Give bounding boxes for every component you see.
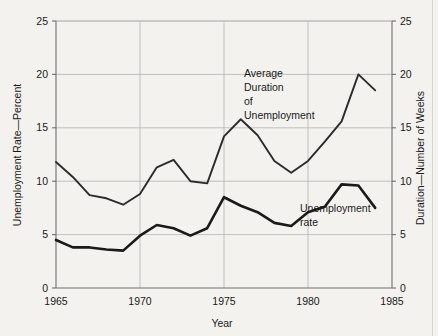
- right-axis-tick-label: 20: [400, 68, 412, 80]
- chart-figure: 0510152025 0510152025 196519701975198019…: [0, 0, 438, 336]
- right-axis-tick-label: 0: [400, 282, 406, 294]
- x-axis-tick-label: 1985: [380, 295, 404, 307]
- left-axis-tick-label: 25: [36, 15, 48, 27]
- right-axis-tick-label: 15: [400, 121, 412, 133]
- left-axis-tick-label: 10: [36, 175, 48, 187]
- x-axis-title: Year: [211, 317, 233, 329]
- duration-annotation-line: Unemployment: [244, 109, 315, 121]
- unemployment-line-chart: 0510152025 0510152025 196519701975198019…: [0, 0, 438, 336]
- right-axis-title: Duration—Number of Weeks: [414, 91, 426, 225]
- x-axis-tick-label: 1970: [128, 295, 152, 307]
- chart-background: [0, 0, 438, 336]
- x-axis-tick-label: 1980: [296, 295, 320, 307]
- x-axis-tick-label: 1975: [212, 295, 236, 307]
- right-axis-tick-label: 25: [400, 15, 412, 27]
- rate-annotation-line: rate: [300, 216, 318, 228]
- x-axis-tick-label: 1965: [44, 295, 68, 307]
- left-axis-tick-label: 5: [42, 228, 48, 240]
- right-axis-tick-label: 10: [400, 175, 412, 187]
- rate-annotation-line: Unemployment: [300, 202, 371, 214]
- left-axis-title: Unemployment Rate—Percent: [11, 84, 23, 226]
- left-axis-tick-label: 15: [36, 121, 48, 133]
- duration-annotation-line: Average: [244, 67, 283, 79]
- left-axis-tick-label: 0: [42, 282, 48, 294]
- duration-annotation-line: Duration: [244, 81, 284, 93]
- left-axis-tick-label: 20: [36, 68, 48, 80]
- right-axis-tick-label: 5: [400, 228, 406, 240]
- duration-annotation-line: of: [244, 95, 253, 107]
- page-edge-line: [432, 0, 433, 336]
